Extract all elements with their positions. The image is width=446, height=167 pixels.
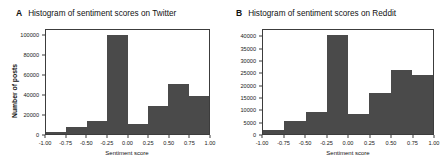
x-axis-tick-label: 1.00 [205,140,216,146]
y-axis-tick-label: 15000 [240,95,256,101]
x-axis-tick-mark [86,135,87,138]
panel-a-bars [46,30,209,134]
y-axis-tick-mark [42,115,45,116]
y-axis-tick-mark [259,85,262,86]
x-axis-tick-label: 0.75 [184,140,195,146]
x-axis-tick-label: -1.00 [39,140,52,146]
y-axis-tick-label: 100000 [20,32,39,38]
x-axis-tick-mark [45,135,46,138]
histogram-bar [46,132,66,134]
y-axis-tick-label: 30000 [240,58,256,64]
x-axis-tick-label: 0.25 [143,140,154,146]
x-axis-tick-mark [168,135,169,138]
y-axis-tick-mark [259,48,262,49]
y-axis-tick-mark [42,75,45,76]
panel-a-twitter: A Histogram of sentiment scores on Twitt… [0,0,223,167]
histogram-bar [327,35,348,134]
x-axis-tick-mark [127,135,128,138]
x-axis-tick-mark [283,135,284,138]
x-axis-tick-label: 0.50 [163,140,174,146]
x-axis-tick-label: 0.00 [343,140,354,146]
panel-b-reddit: B Histogram of sentiment scores on Reddi… [223,0,446,167]
x-axis-tick-label: 0.25 [364,140,375,146]
panel-b-plot: 0500010000150002000025000300003500040000… [223,0,446,167]
y-axis-tick-label: 5000 [244,120,256,126]
histogram-bar [348,114,369,134]
y-axis-tick-label: 25000 [240,70,256,76]
panel-b-axes [262,29,434,135]
y-axis-tick-mark [259,98,262,99]
histogram-bar [87,121,107,134]
y-axis-tick-mark [42,55,45,56]
y-axis-tick-label: 80000 [23,52,39,58]
x-axis-tick-mark [434,135,435,138]
x-axis-tick-mark [189,135,190,138]
y-axis-tick-mark [259,73,262,74]
x-axis-tick-label: -1.00 [256,140,269,146]
x-axis-tick-mark [412,135,413,138]
y-axis-tick-label: 0 [253,132,256,138]
x-axis-tick-label: -0.75 [59,140,72,146]
y-axis-tick-label: 35000 [240,46,256,52]
x-axis-tick-mark [326,135,327,138]
histogram-bar [168,84,188,134]
panel-a-plot: 020000400006000080000100000 -1.00-0.75-0… [0,0,223,167]
x-axis-tick-mark [106,135,107,138]
x-axis-tick-label: -0.50 [80,140,93,146]
histogram-bar [391,70,412,134]
panel-b-xlabel: Sentiment score [326,150,369,156]
y-axis-tick-mark [42,95,45,96]
histogram-bar [148,106,168,134]
y-axis-tick-mark [42,35,45,36]
x-axis-tick-mark [305,135,306,138]
y-axis-tick-label: 60000 [23,72,39,78]
x-axis-tick-label: 0.75 [407,140,418,146]
panel-a-ylabel: Number of posts [11,64,18,118]
x-axis-tick-label: -0.75 [277,140,290,146]
y-axis-tick-mark [259,122,262,123]
x-axis-tick-mark [348,135,349,138]
x-axis-tick-mark [391,135,392,138]
x-axis-tick-mark [262,135,263,138]
x-axis-tick-label: 0.00 [122,140,133,146]
x-axis-tick-label: -0.25 [101,140,114,146]
y-axis-tick-label: 0 [36,132,39,138]
x-axis-tick-mark [369,135,370,138]
x-axis-tick-mark [210,135,211,138]
x-axis-tick-label: -0.50 [299,140,312,146]
histogram-bar [66,127,86,134]
y-axis-tick-label: 40000 [23,92,39,98]
x-axis-tick-label: 0.50 [386,140,397,146]
y-axis-tick-label: 10000 [240,107,256,113]
y-axis-tick-mark [259,61,262,62]
y-axis-tick-label: 20000 [240,83,256,89]
x-axis-tick-label: -0.25 [320,140,333,146]
panel-b-bars [263,30,433,134]
histogram-bar [306,112,327,134]
x-axis-tick-mark [65,135,66,138]
histogram-bar [263,130,284,134]
histogram-bar [412,75,433,134]
y-axis-tick-mark [259,36,262,37]
panel-a-xlabel: Sentiment score [105,150,148,156]
x-axis-tick-label: 1.00 [429,140,440,146]
figure-two-histograms: A Histogram of sentiment scores on Twitt… [0,0,446,167]
histogram-bar [128,124,148,134]
y-axis-tick-label: 40000 [240,33,256,39]
panel-a-axes [45,29,210,135]
histogram-bar [107,35,127,134]
histogram-bar [369,93,390,134]
x-axis-tick-mark [148,135,149,138]
histogram-bar [189,96,209,134]
y-axis-tick-label: 20000 [23,112,39,118]
histogram-bar [284,121,305,134]
y-axis-tick-mark [259,110,262,111]
